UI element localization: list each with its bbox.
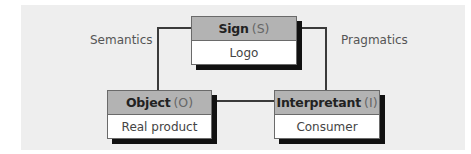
- sign-node-header: Sign (S): [192, 17, 296, 41]
- object-node-abbr: (O): [173, 95, 193, 110]
- connector-object-interpretant: [212, 100, 274, 102]
- semantics-label: Semantics: [90, 33, 153, 47]
- interpretant-node: Interpretant (I) Consumer: [274, 90, 380, 139]
- sign-node-value: Logo: [192, 41, 296, 64]
- sign-node-title: Sign: [218, 21, 248, 36]
- interpretant-node-value: Consumer: [275, 115, 379, 138]
- connector-sign-object-vertical: [157, 27, 159, 91]
- connector-sign-interpretant-horizontal: [297, 27, 327, 29]
- pragmatics-label: Pragmatics: [341, 33, 408, 47]
- object-node-value: Real product: [108, 115, 211, 138]
- interpretant-node-title: Interpretant: [276, 95, 361, 110]
- object-node-title: Object: [126, 95, 171, 110]
- connector-sign-interpretant-vertical: [325, 27, 327, 91]
- connector-sign-object-horizontal: [158, 27, 192, 29]
- interpretant-node-header: Interpretant (I): [275, 91, 379, 115]
- object-node: Object (O) Real product: [107, 90, 212, 139]
- object-node-header: Object (O): [108, 91, 211, 115]
- interpretant-node-abbr: (I): [364, 95, 377, 110]
- sign-node-abbr: (S): [252, 21, 270, 36]
- sign-node: Sign (S) Logo: [191, 16, 297, 65]
